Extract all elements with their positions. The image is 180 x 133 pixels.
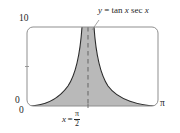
asymptote-variable-x: x xyxy=(62,115,66,124)
curve-equation-equals: = xyxy=(102,5,112,15)
figure-container: 10 0 0 π y = tan x sec x x = π 2 xyxy=(0,0,180,133)
asymptote-fraction: π 2 xyxy=(74,110,80,128)
asymptote-equals-sign: = xyxy=(68,115,73,124)
asymptote-fraction-denominator: 2 xyxy=(74,120,80,129)
curve-equation-tan: tan xyxy=(112,5,125,15)
curve-equation-x-second: x xyxy=(145,5,149,15)
x-axis-pi-label: π xyxy=(160,99,165,109)
y-axis-max-label: 10 xyxy=(19,14,29,24)
curve-equation-label: y = tan x sec x xyxy=(98,6,149,15)
curve-label-leader-line xyxy=(92,20,99,30)
curve-equation-sec: sec xyxy=(129,5,145,15)
shaded-region xyxy=(27,27,158,106)
asymptote-fraction-numerator: π xyxy=(74,110,80,119)
x-axis-zero-label: 0 xyxy=(19,106,24,116)
asymptote-equation-label: x = π 2 xyxy=(62,110,80,128)
